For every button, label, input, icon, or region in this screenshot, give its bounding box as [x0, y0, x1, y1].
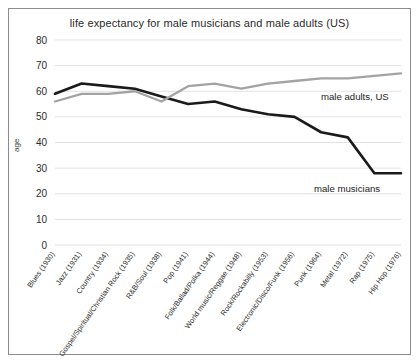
plot-area: 01020304050607080 male adults, USmale mu…: [9, 9, 412, 356]
y-tick-label: 80: [36, 35, 48, 46]
x-tick-label: Blues (1930): [25, 250, 56, 289]
y-tick-label: 0: [41, 240, 47, 251]
data-series: [55, 73, 401, 173]
x-tick-label: Metal (1972): [318, 250, 349, 289]
y-tick-label: 30: [36, 163, 48, 174]
y-tick-label: 20: [36, 188, 48, 199]
y-tick-label: 70: [36, 60, 48, 71]
y-tick-label: 60: [36, 86, 48, 97]
y-tick-label: 40: [36, 137, 48, 148]
y-tick-label: 10: [36, 214, 48, 225]
chart-container: life expectancy for male musicians and m…: [8, 8, 411, 355]
x-tick-label: Rap (1975): [347, 250, 376, 285]
x-tick-label: Pop (1941): [161, 250, 189, 285]
x-tick-label: Rock/Rockabilly (1953): [219, 250, 270, 317]
x-tick-label: Jazz (1931): [54, 250, 84, 287]
series-annotation-male-adults-us: male adults, US: [321, 91, 389, 102]
x-tick-label: Folk/Ballad/Polka (1944): [163, 250, 217, 321]
gridlines: [55, 40, 401, 245]
x-axis-ticks: Blues (1930)Jazz (1931)Country (1934)Gos…: [25, 250, 402, 356]
series-annotation-male-musicians: male musicians: [314, 183, 380, 194]
y-axis-ticks: 01020304050607080: [36, 35, 48, 251]
y-tick-label: 50: [36, 111, 48, 122]
